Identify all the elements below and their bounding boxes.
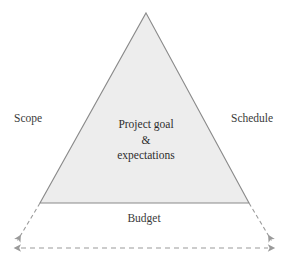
label-scope: Scope (14, 111, 42, 126)
project-triangle-diagram: Project goal & expectations Scope Schedu… (0, 0, 288, 262)
center-text-line-2: & (72, 133, 220, 149)
label-schedule: Schedule (231, 111, 273, 126)
triangle-center-text: Project goal & expectations (72, 117, 220, 164)
label-budget: Budget (0, 211, 288, 226)
triangle-shape (40, 13, 249, 203)
center-text-line-1: Project goal (72, 117, 220, 133)
center-text-line-3: expectations (72, 148, 220, 164)
